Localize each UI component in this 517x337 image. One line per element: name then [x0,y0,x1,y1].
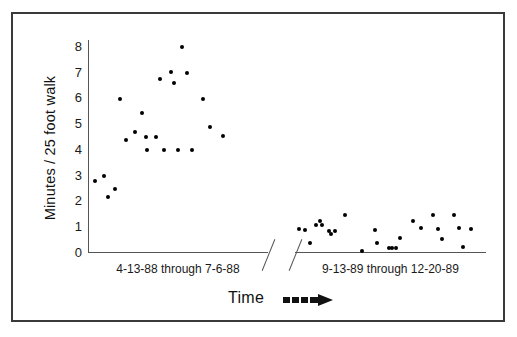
figure: 8 7 6 5 4 3 2 1 0 Minutes / 25 foot walk… [0,0,517,337]
figure-border [11,12,505,322]
